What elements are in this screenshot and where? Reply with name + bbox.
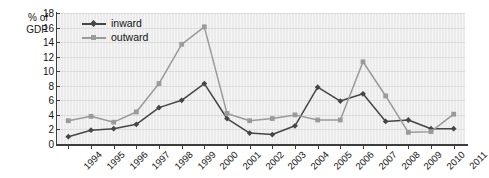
- x-axis-tick-label: 2011: [467, 149, 489, 171]
- legend-label-inward: inward: [111, 17, 142, 30]
- x-axis-tick-mark: [272, 145, 273, 149]
- y-axis-tick-label: 8: [14, 80, 54, 91]
- y-axis-tick-label: 12: [14, 51, 54, 62]
- y-axis-tick-mark: [56, 115, 60, 116]
- legend-swatch-inward: [82, 19, 106, 29]
- x-axis-tick-mark: [159, 145, 160, 149]
- y-axis-tick-mark: [56, 57, 60, 58]
- gridline: [57, 100, 465, 101]
- x-axis-tick-mark: [182, 145, 183, 149]
- legend-item-inward: inward: [82, 17, 148, 30]
- x-axis-tick-mark: [204, 145, 205, 149]
- x-axis-tick-mark: [91, 145, 92, 149]
- x-axis-tick-mark: [363, 145, 364, 149]
- x-axis-tick-label: 2003: [286, 149, 309, 172]
- x-axis-tick-mark: [227, 145, 228, 149]
- x-axis-tick-label: 2010: [444, 149, 467, 172]
- x-axis-tick-label: 2007: [376, 149, 399, 172]
- x-axis-tick-label: 2000: [218, 149, 241, 172]
- y-axis-tick-mark: [56, 13, 60, 14]
- x-axis-tick-label: 1999: [195, 149, 218, 172]
- x-axis-tick-label: 2005: [331, 149, 354, 172]
- y-axis-tick-mark: [56, 86, 60, 87]
- x-axis-tick-mark: [408, 145, 409, 149]
- x-axis-line: [56, 144, 468, 146]
- y-axis-line: [56, 12, 57, 145]
- legend-marker-outward: [91, 35, 96, 40]
- x-axis-tick-label: 1994: [82, 149, 105, 172]
- y-axis-tick-label: 14: [14, 37, 54, 48]
- legend-marker-inward: [90, 20, 97, 27]
- x-axis-tick-label: 2002: [263, 149, 286, 172]
- y-axis-tick-label: 10: [14, 66, 54, 77]
- x-axis-tick-label: 2008: [399, 149, 422, 172]
- x-axis-tick-mark: [431, 145, 432, 149]
- y-axis-tick-mark: [56, 100, 60, 101]
- x-axis-tick-mark: [68, 145, 69, 149]
- gridline: [57, 115, 465, 116]
- x-axis-tick-mark: [386, 145, 387, 149]
- y-axis-tick-label: 4: [14, 109, 54, 120]
- x-axis-tick-label: 1997: [150, 149, 173, 172]
- x-axis-tick-mark: [454, 145, 455, 149]
- y-axis-ticks: 024681012141618: [14, 0, 54, 178]
- x-axis-tick-mark: [114, 145, 115, 149]
- y-axis-tick-mark: [56, 144, 60, 145]
- x-axis-tick-label: 2001: [240, 149, 263, 172]
- gridline: [57, 86, 465, 87]
- x-axis-tick-label: 1998: [172, 149, 195, 172]
- x-axis-tick-label: 2009: [422, 149, 445, 172]
- y-axis-tick-label: 16: [14, 22, 54, 33]
- legend: inward outward: [82, 17, 148, 45]
- x-axis-tick-label: 1996: [127, 149, 150, 172]
- gridline: [57, 129, 465, 130]
- gridline: [57, 13, 465, 14]
- y-axis-tick-label: 2: [14, 124, 54, 135]
- x-axis-tick-label: 2004: [308, 149, 331, 172]
- x-axis-tick-label: 1995: [104, 149, 127, 172]
- y-axis-tick-label: 0: [14, 139, 54, 150]
- x-axis-tick-mark: [250, 145, 251, 149]
- x-axis-tick-mark: [318, 145, 319, 149]
- y-axis-tick-mark: [56, 28, 60, 29]
- x-axis-tick-label: 2006: [354, 149, 377, 172]
- y-axis-tick-mark: [56, 42, 60, 43]
- gridline: [57, 57, 465, 58]
- y-axis-tick-label: 6: [14, 95, 54, 106]
- legend-swatch-outward: [82, 33, 106, 43]
- gridline: [57, 71, 465, 72]
- legend-label-outward: outward: [111, 31, 148, 44]
- x-axis-tick-mark: [136, 145, 137, 149]
- x-axis-tick-mark: [340, 145, 341, 149]
- legend-item-outward: outward: [82, 31, 148, 44]
- y-axis-tick-mark: [56, 129, 60, 130]
- y-axis-tick-mark: [56, 71, 60, 72]
- x-axis-tick-mark: [295, 145, 296, 149]
- y-axis-tick-label: 18: [14, 8, 54, 19]
